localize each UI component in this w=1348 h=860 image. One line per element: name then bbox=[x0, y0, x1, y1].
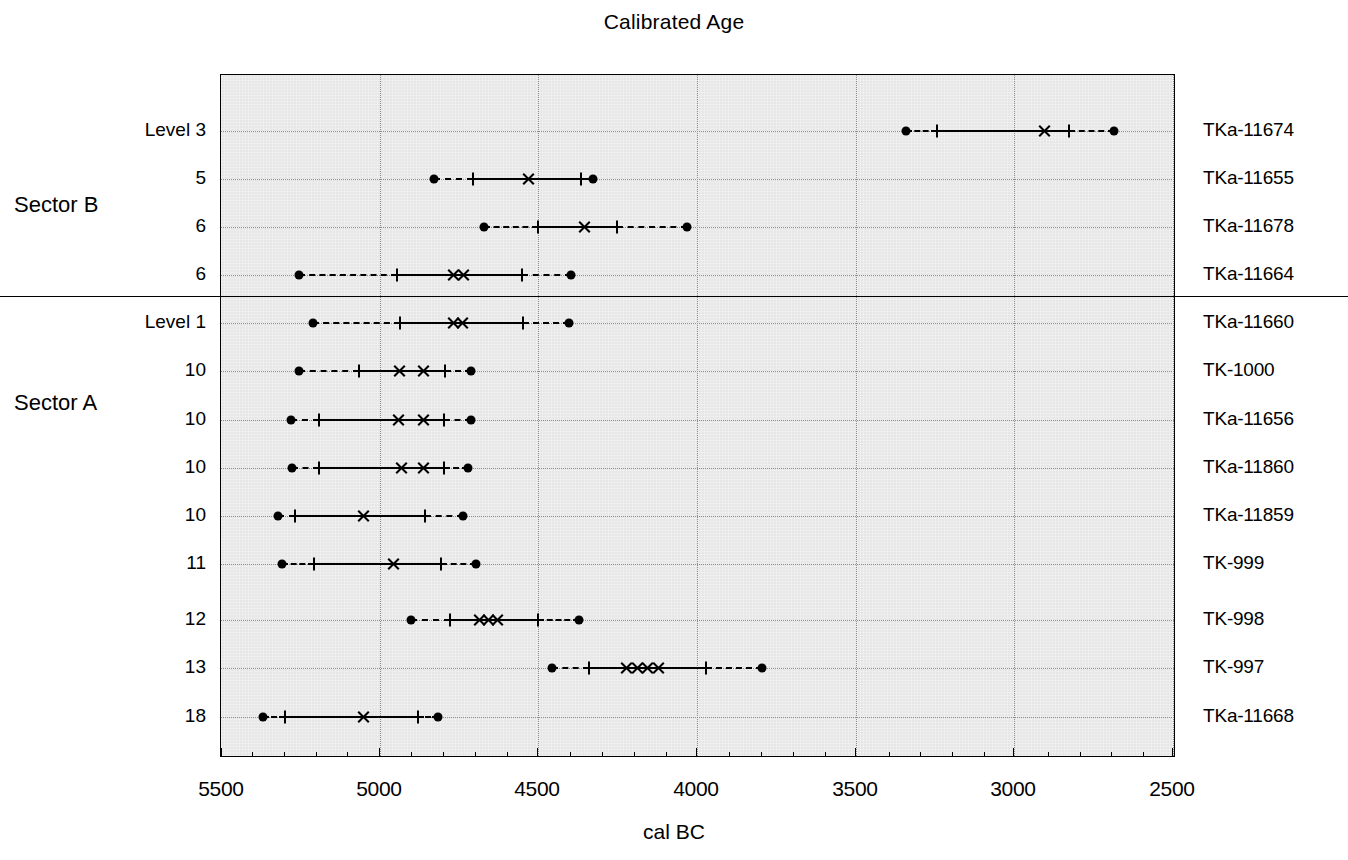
median-cross-icon bbox=[391, 413, 406, 428]
range-endpoint-dot bbox=[1110, 127, 1119, 136]
level-label: Level 3 bbox=[145, 119, 206, 141]
range-2sigma-left bbox=[906, 130, 937, 132]
x-tick-minor bbox=[411, 752, 412, 757]
range-endpoint-dot bbox=[407, 616, 416, 625]
range-1sigma-tick bbox=[521, 269, 523, 282]
x-tick-label: 4000 bbox=[641, 777, 751, 801]
range-endpoint-dot bbox=[459, 512, 468, 521]
median-cross-icon bbox=[521, 172, 536, 187]
x-tick-major bbox=[221, 748, 222, 757]
range-endpoint-dot bbox=[288, 464, 297, 473]
range-1sigma bbox=[314, 563, 441, 565]
x-tick-label: 4500 bbox=[482, 777, 592, 801]
range-endpoint-dot bbox=[480, 223, 489, 232]
gridline-horizontal bbox=[221, 227, 1174, 229]
range-1sigma-tick bbox=[1068, 125, 1070, 138]
gridline-vertical bbox=[697, 75, 699, 756]
range-2sigma-right bbox=[1069, 130, 1114, 132]
x-tick-label: 2500 bbox=[1117, 777, 1227, 801]
sector-label: Sector A bbox=[14, 390, 97, 416]
range-endpoint-dot bbox=[259, 713, 268, 722]
x-tick-label: 3500 bbox=[800, 777, 910, 801]
level-label: 6 bbox=[195, 215, 206, 237]
range-endpoint-dot bbox=[683, 223, 692, 232]
x-tick-minor bbox=[347, 752, 348, 757]
x-tick-minor bbox=[1143, 752, 1144, 757]
range-1sigma-tick bbox=[318, 462, 320, 475]
x-tick-minor bbox=[634, 752, 635, 757]
x-tick-minor bbox=[316, 752, 317, 757]
range-1sigma bbox=[285, 716, 418, 718]
range-1sigma-tick bbox=[705, 662, 707, 675]
range-2sigma-left bbox=[434, 178, 473, 180]
range-2sigma-left bbox=[484, 226, 538, 228]
lab-code-label: TKa-11668 bbox=[1203, 705, 1294, 727]
range-1sigma-tick bbox=[472, 173, 474, 186]
level-label: 10 bbox=[185, 504, 206, 526]
x-tick-label: 5000 bbox=[324, 777, 434, 801]
range-endpoint-dot bbox=[434, 713, 443, 722]
range-endpoint-dot bbox=[575, 616, 584, 625]
median-cross-icon bbox=[386, 557, 401, 572]
sector-label: Sector B bbox=[14, 192, 98, 218]
range-endpoint-dot bbox=[274, 512, 283, 521]
x-tick-minor bbox=[984, 752, 985, 757]
range-endpoint-dot bbox=[295, 271, 304, 280]
level-label: 11 bbox=[186, 552, 206, 574]
range-endpoint-dot bbox=[758, 664, 767, 673]
x-tick-minor bbox=[666, 752, 667, 757]
lab-code-label: TKa-11660 bbox=[1203, 311, 1294, 333]
range-endpoint-dot bbox=[472, 560, 481, 569]
x-tick-minor bbox=[952, 752, 953, 757]
range-1sigma-tick bbox=[522, 317, 524, 330]
x-tick-minor bbox=[252, 752, 253, 757]
range-2sigma-left bbox=[313, 322, 400, 324]
range-2sigma-left bbox=[299, 370, 359, 372]
range-1sigma-tick bbox=[588, 662, 590, 675]
sector-divider bbox=[0, 296, 1348, 297]
range-endpoint-dot bbox=[548, 664, 557, 673]
median-cross-icon bbox=[356, 509, 371, 524]
x-tick-major bbox=[379, 748, 380, 757]
x-tick-major bbox=[1172, 748, 1173, 757]
median-cross-icon bbox=[577, 220, 592, 235]
gridline-horizontal bbox=[221, 179, 1174, 181]
range-1sigma-tick bbox=[444, 365, 446, 378]
median-cross-icon bbox=[416, 461, 431, 476]
lab-code-label: TKa-11678 bbox=[1203, 215, 1294, 237]
x-tick-minor bbox=[570, 752, 571, 757]
x-tick-minor bbox=[602, 752, 603, 757]
range-2sigma-left bbox=[282, 563, 314, 565]
level-label: 18 bbox=[185, 705, 206, 727]
range-2sigma-right bbox=[522, 274, 571, 276]
range-endpoint-dot bbox=[902, 127, 911, 136]
range-1sigma-tick bbox=[580, 173, 582, 186]
x-tick-minor bbox=[507, 752, 508, 757]
range-1sigma-tick bbox=[537, 614, 539, 627]
median-cross-icon bbox=[456, 268, 471, 283]
x-tick-minor bbox=[284, 752, 285, 757]
range-endpoint-dot bbox=[567, 271, 576, 280]
range-2sigma-right bbox=[425, 515, 463, 517]
median-cross-icon bbox=[394, 461, 409, 476]
median-cross-icon bbox=[392, 364, 407, 379]
x-tick-major bbox=[537, 748, 538, 757]
range-1sigma-tick bbox=[443, 414, 445, 427]
range-2sigma-right bbox=[617, 226, 687, 228]
level-label: Level 1 bbox=[145, 311, 206, 333]
x-tick-minor bbox=[729, 752, 730, 757]
range-endpoint-dot bbox=[295, 367, 304, 376]
range-1sigma-tick bbox=[440, 558, 442, 571]
range-1sigma-tick bbox=[396, 269, 398, 282]
range-1sigma-tick bbox=[294, 510, 296, 523]
range-endpoint-dot bbox=[589, 175, 598, 184]
range-1sigma-tick bbox=[443, 462, 445, 475]
lab-code-label: TKa-11860 bbox=[1203, 456, 1294, 478]
range-1sigma-tick bbox=[417, 711, 419, 724]
gridline-horizontal bbox=[221, 620, 1174, 622]
lab-code-label: TK-998 bbox=[1203, 608, 1264, 630]
range-endpoint-dot bbox=[287, 416, 296, 425]
range-1sigma-tick bbox=[313, 558, 315, 571]
range-1sigma-tick bbox=[936, 125, 938, 138]
lab-code-label: TKa-11859 bbox=[1203, 504, 1294, 526]
